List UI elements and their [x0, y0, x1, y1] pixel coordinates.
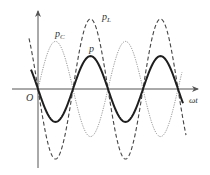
p-label: p [88, 43, 94, 54]
p-l-label: pL [101, 11, 111, 24]
x-axis-label: ωt [189, 95, 198, 105]
p-c-label: pC [54, 28, 65, 41]
origin-label: O [26, 92, 33, 103]
power-waveform-diagram: O ωt p pL pC [0, 0, 210, 175]
